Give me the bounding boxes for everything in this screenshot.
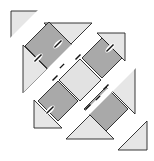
- seam-mark-icon: [52, 75, 58, 81]
- quilt-assembly-diagram: [0, 0, 154, 161]
- seam-mark-icon: [59, 63, 64, 68]
